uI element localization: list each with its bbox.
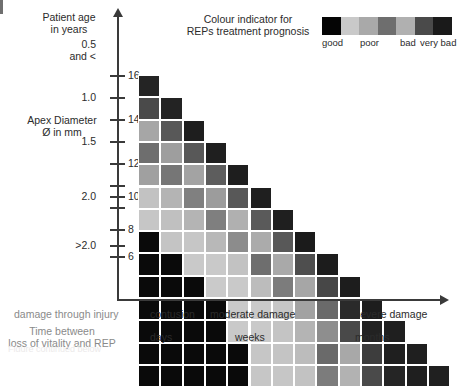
heatmap-cell [227,276,249,298]
heatmap-cell [205,142,227,164]
heatmap-cell [316,276,338,298]
heatmap-cell [160,187,182,209]
heatmap-cell [339,276,361,298]
legend-labels: good poor bad very bad [322,37,452,51]
heatmap-cell [294,276,316,298]
heatmap-cell [227,253,249,275]
heatmap-cell [183,365,205,387]
y-label-age-3: 2.0 [81,190,96,202]
heatmap-cell [138,276,160,298]
heatmap-cell [227,164,249,186]
heatmap-cell [205,276,227,298]
heatmap-cell [205,320,227,342]
heatmap-cell [183,164,205,186]
heatmap-cell [250,231,272,253]
legend-swatch-1 [341,17,360,35]
x-axis-line [117,299,441,301]
x-axis-arrow-icon [440,295,449,305]
heatmap-cell [138,75,160,97]
heatmap-cell [294,320,316,342]
legend-swatch-5 [415,17,434,35]
heatmap-cell [339,343,361,365]
heatmap-cell [227,231,249,253]
legend-swatch-0 [322,17,341,35]
heatmap-cell [383,343,405,365]
heatmap-cell [227,209,249,231]
y-tick-age-10 [110,256,125,258]
x-label-months: months [355,331,389,343]
y-label-age-1: 1.0 [81,91,96,103]
heatmap-cell [294,253,316,275]
y-label-age-4: >2.0 [75,239,96,251]
heatmap-cell [428,365,450,387]
heatmap-cell [160,120,182,142]
heatmap-cell [272,253,294,275]
heatmap-cell [138,187,160,209]
heatmap-cell [138,209,160,231]
heatmap-cell [294,365,316,387]
heatmap-cell [339,365,361,387]
heatmap-cell [272,209,294,231]
x-label-contusion: contusion [150,308,195,320]
heatmap-cell [138,120,160,142]
x-label-days: days [150,331,172,343]
legend-swatch-2 [359,17,378,35]
heatmap-cell [160,142,182,164]
y-label-age-0: 0.5 and < [69,38,96,62]
heatmap-cell [138,253,160,275]
heatmap-cell [160,365,182,387]
heatmap-cell [183,187,205,209]
heatmap-cell [250,253,272,275]
y-label-diam-6: 6 [128,250,134,262]
heatmap-cell [183,120,205,142]
heatmap-cell [205,164,227,186]
heatmap-cell [205,231,227,253]
y-tick-age-8 [110,229,125,231]
legend-label-bad: bad [400,37,416,48]
y-label-diam-8: 8 [128,223,134,235]
y-axis-secondary-title: Apex Diameter Ø in mm [10,115,114,139]
x-caption-damage: damage through injury [14,308,118,320]
heatmap-cell [205,209,227,231]
heatmap-cell [383,365,405,387]
heatmap-cell [138,142,160,164]
legend-swatch-6 [433,17,452,35]
heatmap-cell [272,231,294,253]
heatmap-cell [160,209,182,231]
heatmap-cell [272,320,294,342]
heatmap-cell [183,320,205,342]
heatmap-cell [316,365,338,387]
heatmap-cell [227,187,249,209]
heatmap-cell [138,97,160,119]
heatmap-cell [406,365,428,387]
y-tick-age-6 [110,196,125,198]
heatmap-cell [361,365,383,387]
heatmap-cell [205,187,227,209]
heatmap-cell [316,320,338,342]
y-label-age-2: 1.5 [81,135,96,147]
heatmap-cell [361,343,383,365]
heatmap-cell [138,365,160,387]
heatmap-cell [138,231,160,253]
heatmap-cell [294,231,316,253]
y-tick-age-1 [110,97,125,99]
legend-gradient-bar [322,17,452,35]
heatmap-cell [316,298,338,320]
legend-label-good: good [322,37,343,48]
heatmap-cell [160,97,182,119]
legend-label-very-bad: very bad [420,37,456,48]
truncated-figure-caption: Figure continued below [8,344,238,352]
y-axis-primary-title: Patient age in years [26,12,112,36]
legend-label-poor: poor [360,37,379,48]
legend-swatch-3 [378,17,397,35]
heatmap-cell [272,343,294,365]
y-tick-age-2 [110,119,125,121]
heatmap-cell [250,276,272,298]
heatmap-cell [183,253,205,275]
heatmap-cell [160,276,182,298]
heatmap-cell [183,142,205,164]
heatmap-cell [250,187,272,209]
heatmap-cell [272,365,294,387]
heatmap-cell [183,276,205,298]
y-tick-age-9 [110,245,125,247]
